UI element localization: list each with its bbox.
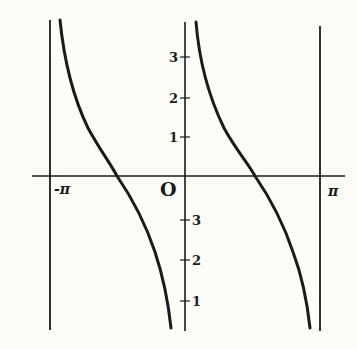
origin-label: O — [160, 178, 177, 200]
y-tick-label-neg-1: 1 — [192, 294, 201, 309]
x-label-neg-pi: -π — [54, 181, 71, 197]
y-tick-label-3: 3 — [169, 50, 178, 65]
y-tick-label-neg-3: 3 — [192, 213, 201, 228]
y-tick-label-neg-2: 2 — [192, 253, 201, 268]
cot-branch-left — [60, 20, 171, 328]
x-label-pi: π — [327, 183, 339, 199]
cot-branch-right — [196, 22, 310, 328]
cotangent-graph: 3 2 1 3 2 1 -π O π — [0, 0, 357, 349]
y-tick-label-2: 2 — [169, 91, 178, 106]
y-tick-label-1: 1 — [169, 130, 178, 145]
